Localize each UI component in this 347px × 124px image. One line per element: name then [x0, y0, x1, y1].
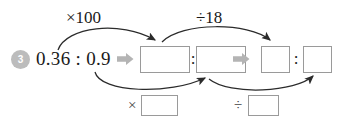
answer-box-first-term[interactable]	[140, 46, 190, 73]
fat-right-arrow-icon	[117, 52, 134, 70]
answer-box-divisor[interactable]	[248, 95, 279, 116]
answer-box-third-term[interactable]	[261, 46, 290, 73]
answer-box-fourth-term[interactable]	[303, 46, 332, 73]
answer-box-multiplier[interactable]	[141, 95, 178, 116]
operation-label-divide-18: ÷18	[196, 8, 222, 28]
fat-right-arrow-icon	[233, 52, 250, 70]
ratio-simplification-worksheet-figure: 3 0.36 : 0.9 ×100 ÷18 : : × ÷	[0, 0, 347, 124]
operation-label-multiply-100: ×100	[66, 8, 101, 28]
curve-divide-18-arrow	[162, 27, 270, 42]
curve-divide-box-arrow	[209, 76, 313, 90]
problem-number-badge: 3	[11, 50, 30, 69]
given-ratio-expression: 0.36 : 0.9	[36, 48, 111, 70]
curve-multiply-box-arrow	[95, 72, 205, 89]
ratio-colon-2: :	[290, 49, 302, 69]
operator-sign-divide: ÷	[234, 97, 242, 114]
operator-sign-multiply: ×	[128, 97, 136, 114]
